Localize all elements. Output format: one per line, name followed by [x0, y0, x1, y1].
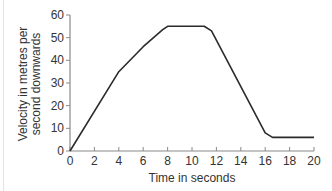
- x-axis-title: Time in seconds: [149, 171, 236, 185]
- y-axis-title: Velocity in metres per second downwards: [16, 27, 43, 142]
- x-tick-label: 10: [185, 154, 199, 168]
- x-tick-label: 18: [283, 154, 297, 168]
- axes: [70, 15, 314, 151]
- y-tick-label: 20: [51, 99, 65, 113]
- y-tick-label: 50: [51, 31, 65, 45]
- x-tick-label: 0: [67, 154, 74, 168]
- x-tick-label: 20: [307, 154, 321, 168]
- x-axis-ticks: 02468101214161820: [67, 147, 321, 168]
- x-tick-label: 16: [259, 154, 273, 168]
- y-tick-label: 40: [51, 53, 65, 67]
- y-tick-label: 10: [51, 121, 65, 135]
- y-axis-ticks: 0102030405060: [51, 8, 70, 158]
- y-axis-title-line-2: second downwards: [29, 33, 43, 136]
- x-tick-label: 6: [140, 154, 147, 168]
- y-tick-label: 60: [51, 8, 65, 22]
- x-tick-label: 14: [234, 154, 248, 168]
- velocity-time-chart: 0102030405060 02468101214161820 Time in …: [0, 0, 332, 191]
- y-tick-label: 30: [51, 76, 65, 90]
- x-tick-label: 12: [210, 154, 224, 168]
- x-tick-label: 4: [115, 154, 122, 168]
- velocity-line: [70, 26, 314, 151]
- y-axis-title-line-1: Velocity in metres per: [16, 27, 30, 142]
- y-tick-label: 0: [57, 144, 64, 158]
- x-tick-label: 2: [91, 154, 98, 168]
- x-tick-label: 8: [164, 154, 171, 168]
